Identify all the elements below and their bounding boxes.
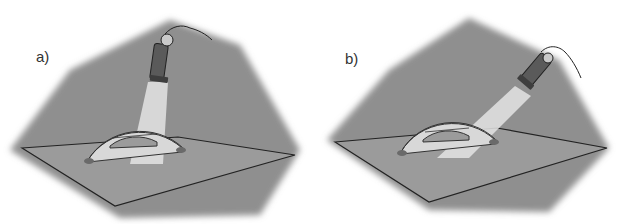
illustration-a	[0, 0, 319, 224]
panel-label: b)	[345, 50, 358, 67]
illustration-b	[319, 0, 638, 224]
panel-a: a)	[0, 0, 319, 224]
panel-b: b)	[319, 0, 638, 224]
panel-label: a)	[36, 48, 49, 65]
